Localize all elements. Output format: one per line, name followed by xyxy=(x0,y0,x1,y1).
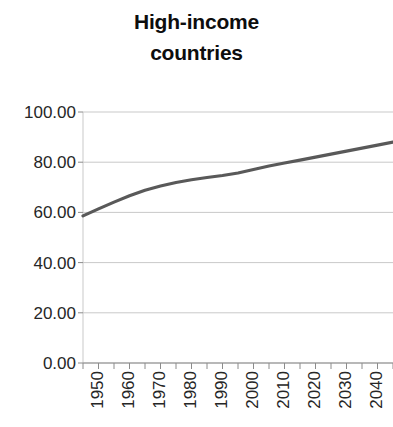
x-tick-label: 2040 xyxy=(368,371,385,409)
x-tick-label: 2020 xyxy=(306,371,323,409)
x-tick-label: 1990 xyxy=(213,371,230,409)
x-tick-label: 2030 xyxy=(337,371,354,409)
x-tick-label: 1960 xyxy=(120,371,137,409)
x-axis: 1950196019701980199020002010202020302040… xyxy=(0,0,393,427)
x-tick-label: 1950 xyxy=(89,371,106,409)
x-tick-label: 1970 xyxy=(151,371,168,409)
x-tick-label: 2000 xyxy=(244,371,261,409)
x-tick-label: 2010 xyxy=(275,371,292,409)
chart-figure: High-income countries 0.0020.0040.0060.0… xyxy=(0,0,393,427)
x-tick-label: 1980 xyxy=(182,371,199,409)
